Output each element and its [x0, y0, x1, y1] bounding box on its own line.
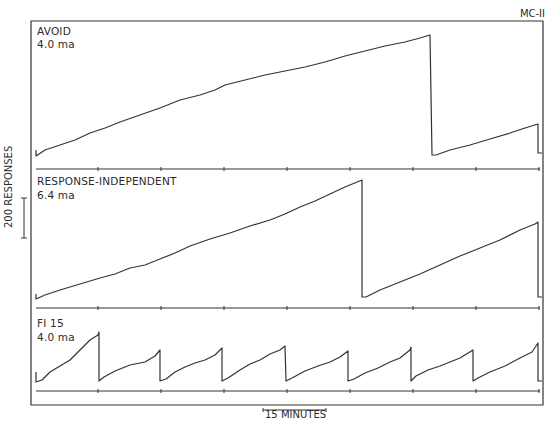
y-scale-label: 200 RESPONSES [3, 146, 14, 228]
x-scale-label: 15 MINUTES [265, 409, 326, 420]
y-scale-bar [21, 198, 27, 238]
figure-id-label: MC-II [520, 8, 545, 19]
panel-1-intensity: 4.0 ma [37, 38, 75, 51]
panel-3-title: FI 15 [37, 317, 64, 330]
panel-3-intensity: 4.0 ma [37, 331, 75, 344]
cumulative-record-figure: MC-II AVOID 4.0 ma RESPONSE-INDEPENDENT … [0, 0, 559, 428]
fi15-record [36, 332, 542, 382]
panel-1-title: AVOID [37, 25, 71, 38]
avoid-record [36, 35, 542, 156]
panel-2-intensity: 6.4 ma [37, 189, 75, 202]
chart-canvas [0, 0, 559, 428]
panel-2-title: RESPONSE-INDEPENDENT [37, 175, 177, 188]
response-independent-record [36, 180, 542, 299]
